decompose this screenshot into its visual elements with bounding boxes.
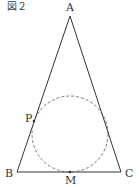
label-c: C bbox=[125, 167, 133, 180]
label-m: M bbox=[65, 174, 76, 187]
triangle-diagram: A B C P M bbox=[0, 0, 139, 187]
label-p: P bbox=[25, 112, 33, 125]
label-a: A bbox=[65, 1, 75, 14]
side-ab bbox=[17, 16, 70, 172]
point-p bbox=[33, 120, 36, 123]
inscribed-circle bbox=[32, 96, 108, 172]
triangle-abc bbox=[17, 16, 121, 172]
point-m bbox=[69, 171, 72, 174]
side-ac bbox=[70, 16, 121, 172]
label-b: B bbox=[5, 167, 13, 180]
